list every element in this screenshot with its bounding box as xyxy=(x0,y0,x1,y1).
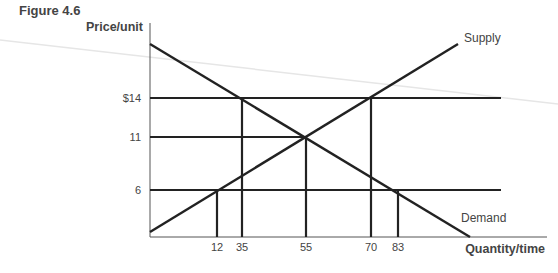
y-axis-label: Price/unit xyxy=(86,20,144,34)
scan-artifact-line xyxy=(0,40,558,104)
supply-demand-chart: Price/unit Quantity/time Supply Demand $… xyxy=(0,0,558,273)
x-tick-70: 70 xyxy=(365,241,377,253)
x-tick-83: 83 xyxy=(392,241,404,253)
supply-label: Supply xyxy=(464,31,501,45)
demand-label: Demand xyxy=(461,211,506,225)
y-tick-6: 6 xyxy=(135,184,141,196)
x-tick-55: 55 xyxy=(300,241,312,253)
demand-curve xyxy=(150,44,470,237)
x-tick-12: 12 xyxy=(211,241,223,253)
x-tick-35: 35 xyxy=(236,241,248,253)
y-tick-14: $14 xyxy=(123,92,141,104)
y-tick-11: 11 xyxy=(130,131,141,143)
x-axis-label: Quantity/time xyxy=(465,242,545,256)
